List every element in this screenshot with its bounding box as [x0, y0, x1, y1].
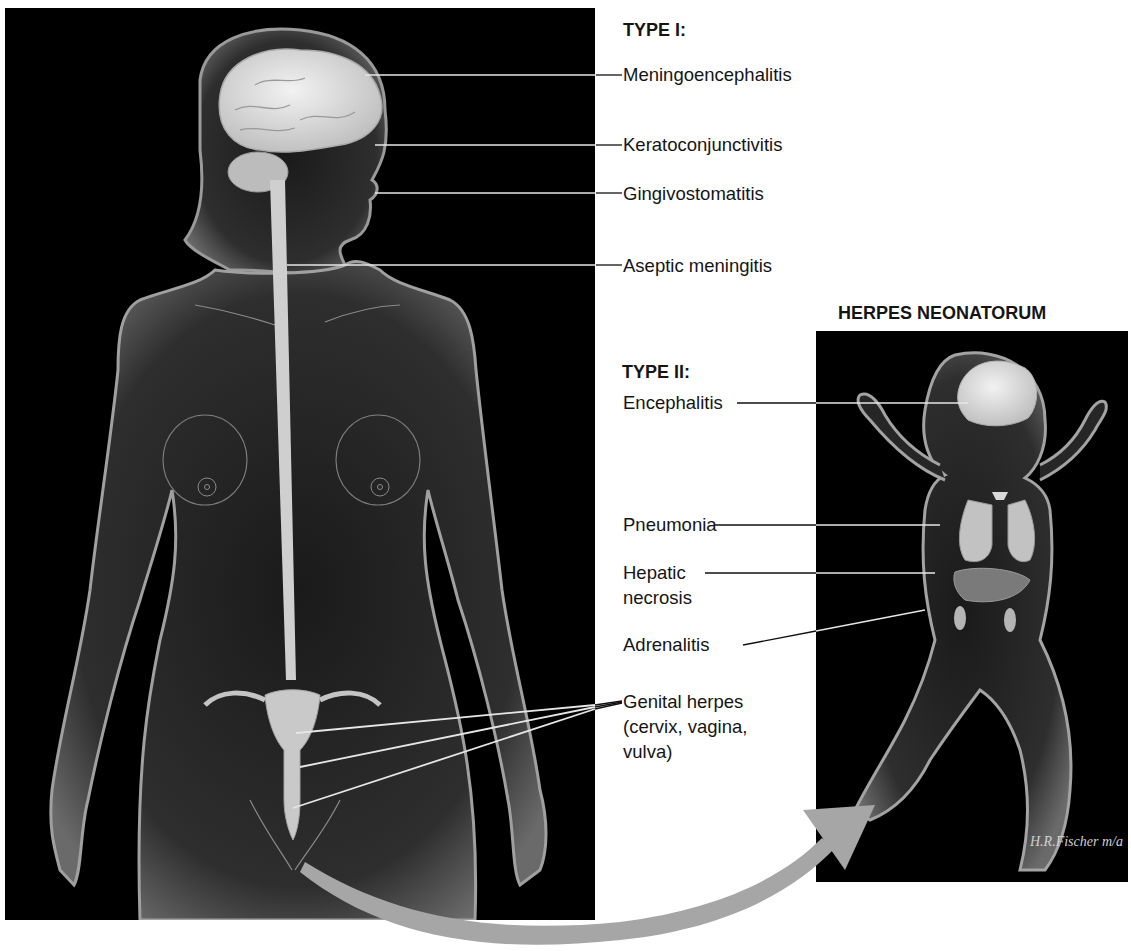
neonate-left-adrenal [954, 606, 966, 630]
label-encephalitis: Encephalitis [623, 392, 723, 414]
label-adrenalitis: Adrenalitis [623, 634, 709, 656]
neonate-brain [958, 361, 1037, 426]
neonate-right-adrenal [1004, 608, 1016, 632]
adult-brain [219, 49, 382, 152]
type2-heading: TYPE II: [622, 362, 690, 383]
herpes-neonatorum-title: HERPES NEONATORUM [838, 303, 1046, 324]
label-genital-sites-2: vulva) [623, 741, 672, 763]
label-gingivostomatitis: Gingivostomatitis [623, 183, 764, 205]
label-pneumonia: Pneumonia [623, 514, 717, 536]
adult-figure [51, 29, 546, 920]
label-necrosis: necrosis [623, 587, 692, 609]
type1-heading: TYPE I: [623, 20, 686, 41]
label-hepatic: Hepatic [623, 562, 686, 584]
label-genital-herpes: Genital herpes [623, 691, 743, 713]
artist-signature: H.R.Fischer m/a [1029, 834, 1123, 849]
label-keratoconjunctivitis: Keratoconjunctivitis [623, 134, 782, 156]
label-meningoencephalitis: Meningoencephalitis [623, 64, 792, 86]
neonate-figure [855, 353, 1106, 870]
label-genital-sites-1: (cervix, vagina, [623, 716, 747, 738]
neonate-right-arm [1040, 401, 1106, 480]
illustration-artwork: H.R.Fischer m/a [0, 0, 1131, 951]
label-aseptic-meningitis: Aseptic meningitis [623, 255, 772, 277]
